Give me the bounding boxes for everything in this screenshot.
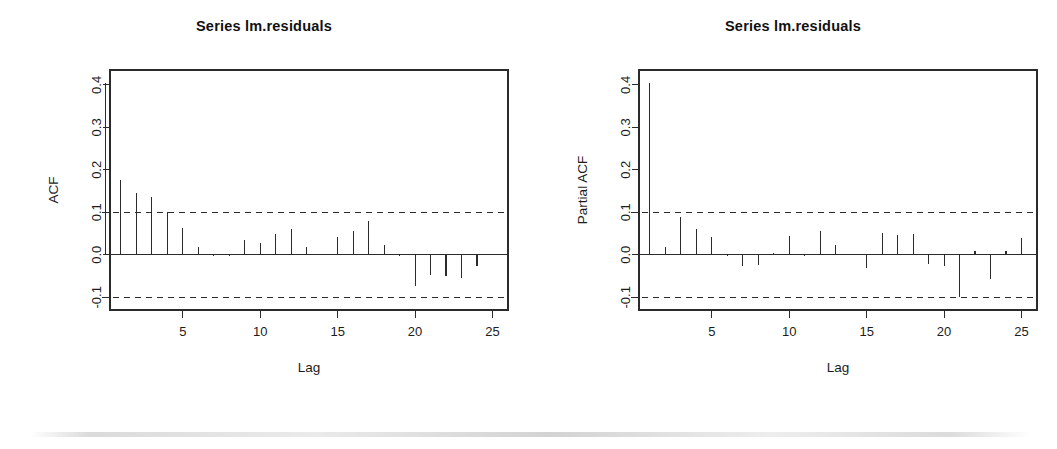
x-axis-tick-label: 10 [253,324,267,339]
x-axis-label: Lag [298,360,321,375]
y-axis-tick-label: 0.3 [90,118,105,136]
figure-canvas: Series lm.residuals -0.10.00.10.20.30.45… [0,0,1057,449]
y-axis-tick-label: 0.4 [90,76,105,94]
x-axis-label: Lag [827,360,850,375]
x-axis-tick-label: 15 [859,324,873,339]
scan-artifact-line [30,432,1030,437]
pacf-panel: Series lm.residuals -0.10.00.10.20.30.45… [529,0,1057,415]
y-axis-tick-label: 0.2 [619,161,634,179]
x-axis-tick-label: 20 [408,324,422,339]
x-axis-tick-label: 5 [179,324,186,339]
y-axis-tick-label: 0.4 [619,76,634,94]
acf-panel: Series lm.residuals -0.10.00.10.20.30.45… [0,0,528,415]
x-axis-tick-label: 25 [485,324,499,339]
x-axis-tick-label: 5 [708,324,715,339]
x-axis-tick-label: 10 [782,324,796,339]
acf-plot-svg: -0.10.00.10.20.30.4510152025LagACF [0,0,528,415]
plot-box [110,70,508,310]
x-axis-tick-label: 15 [330,324,344,339]
pacf-plot-svg: -0.10.00.10.20.30.4510152025LagPartial A… [529,0,1057,415]
y-axis-label: Partial ACF [575,156,590,224]
plot-box [639,70,1037,310]
y-axis-tick-label: 0.0 [619,246,634,264]
y-axis-label: ACF [46,177,61,204]
y-axis-tick-label: 0.3 [619,118,634,136]
y-axis-tick-label: 0.0 [90,246,105,264]
x-axis-tick-label: 20 [937,324,951,339]
x-axis-tick-label: 25 [1014,324,1028,339]
y-axis-tick-label: 0.2 [90,161,105,179]
